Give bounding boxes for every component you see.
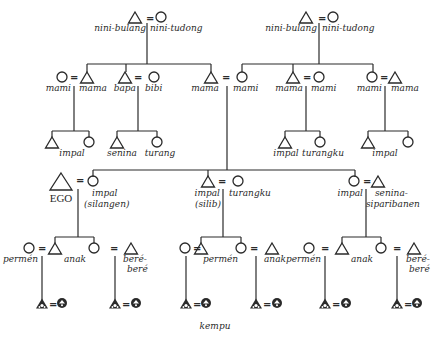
svg-text:=: =	[122, 299, 130, 310]
g2-couple-ego-parents: = mama mami	[191, 72, 258, 93]
female-circle-icon	[237, 72, 247, 82]
female-circle-icon	[403, 137, 413, 147]
g2-label: mami	[311, 83, 336, 93]
g4-label: permén	[286, 254, 321, 264]
g1-left-female-label: nini-tudong	[150, 23, 203, 33]
g1-right-couple: = nini-bulang nini-tudong	[265, 12, 375, 33]
female-circle-icon	[236, 243, 246, 253]
g3-label: senina-	[375, 188, 408, 198]
kempu-couple: =	[250, 298, 282, 310]
g4-label: beré-	[406, 254, 430, 264]
ego-couple: = EGO impal (silangen)	[50, 173, 130, 209]
svg-text:=: =	[193, 299, 201, 310]
g3-label: impal	[273, 148, 299, 158]
g3-label: impal	[372, 148, 398, 158]
g4-label: permén	[3, 254, 38, 264]
g2-label: mama	[79, 83, 107, 93]
g2-label: mami	[233, 83, 258, 93]
g3-upper-2: senina turang	[107, 137, 175, 158]
g2-couple-1: = mami mama	[46, 72, 107, 93]
g3-upper-1: impal	[46, 137, 95, 158]
g3-upper-4: impal	[362, 137, 414, 158]
male-triangle-icon	[111, 137, 124, 148]
female-circle-icon	[304, 243, 314, 253]
male-triangle-icon	[205, 72, 218, 83]
grandchild-male-icon	[319, 299, 331, 309]
male-triangle-icon	[125, 243, 138, 254]
g3-label: impal	[92, 188, 118, 198]
siparibanen-couple: = impal senina- siparibanen	[338, 176, 420, 209]
svg-text:=: =	[393, 243, 401, 254]
svg-text:=: =	[38, 243, 46, 254]
svg-text:=: =	[70, 72, 78, 83]
female-circle-icon	[376, 243, 386, 253]
grandchild-male-icon	[36, 299, 48, 309]
kempu-caption: kempu	[200, 321, 231, 331]
kempu-couple: =	[391, 298, 422, 310]
g3-sub-label: (silib)	[195, 199, 222, 209]
male-triangle-icon	[129, 12, 142, 23]
male-triangle-icon	[287, 72, 300, 83]
svg-text:=: =	[110, 243, 118, 254]
female-circle-icon	[24, 243, 34, 253]
female-circle-icon	[315, 137, 325, 147]
g2-label: mama	[391, 83, 419, 93]
g4-group-1: = = permén anak beré- beré	[3, 243, 148, 274]
male-triangle-icon	[408, 243, 421, 254]
kempu-couple: =	[36, 298, 67, 310]
g3-label: impal	[338, 188, 364, 198]
grandchild-female-icon	[131, 298, 141, 308]
g4-label: beré-	[123, 254, 147, 264]
g2-label: mami	[46, 83, 71, 93]
svg-text:=: =	[321, 243, 329, 254]
svg-text:=: =	[263, 299, 271, 310]
g2-label: mami	[357, 83, 382, 93]
g2-label: bapa	[114, 83, 136, 93]
ego-label: EGO	[50, 192, 73, 204]
female-circle-icon	[180, 243, 190, 253]
g3-sub-label: (silangen)	[84, 199, 130, 209]
svg-text:=: =	[380, 72, 388, 83]
g2-couple-5: = mami mama	[357, 72, 419, 93]
g4-label: beré	[127, 264, 148, 274]
g3-label: impal	[59, 148, 85, 158]
kempu-couple: =	[109, 298, 141, 310]
g4-group-2: = = permén anak	[180, 243, 286, 264]
female-circle-icon	[328, 12, 338, 22]
g2-label: mama	[191, 83, 219, 93]
grandchild-male-icon	[180, 299, 192, 309]
female-circle-icon	[233, 176, 243, 186]
g1-left-couple: = nini-bulang nini-tudong	[94, 12, 203, 33]
grandchild-female-icon	[272, 298, 282, 308]
g4-label: permén	[203, 254, 238, 264]
g4-label: anak	[64, 254, 86, 264]
silib-couple: = impal (silib) turangku	[195, 176, 272, 209]
grandchild-female-icon	[201, 298, 211, 308]
grandchild-female-icon	[341, 298, 351, 308]
g3-label: siparibanen	[366, 199, 420, 209]
grandchild-male-icon	[250, 299, 262, 309]
svg-text:=: =	[250, 243, 258, 254]
svg-text:=: =	[332, 299, 340, 310]
male-triangle-icon	[46, 137, 59, 148]
svg-text:=: =	[303, 72, 311, 83]
female-circle-icon	[314, 72, 324, 82]
g2-label: bibi	[145, 83, 162, 93]
ego-triangle-icon	[50, 173, 72, 190]
g4-label: anak	[351, 254, 373, 264]
svg-text:=: =	[222, 72, 230, 83]
g1-right-male-label: nini-bulang	[265, 23, 317, 33]
male-triangle-icon	[362, 137, 375, 148]
grandchild-female-icon	[57, 298, 67, 308]
male-triangle-icon	[202, 176, 215, 187]
male-triangle-icon	[279, 137, 292, 148]
female-circle-icon	[89, 243, 99, 253]
g3-label: impal	[195, 188, 221, 198]
male-triangle-icon	[389, 72, 402, 83]
grandchild-male-icon	[391, 299, 403, 309]
male-triangle-icon	[300, 12, 313, 23]
grandchild-male-icon	[109, 299, 121, 309]
female-circle-icon	[152, 137, 162, 147]
svg-text:=: =	[218, 176, 226, 187]
female-circle-icon	[156, 12, 166, 22]
